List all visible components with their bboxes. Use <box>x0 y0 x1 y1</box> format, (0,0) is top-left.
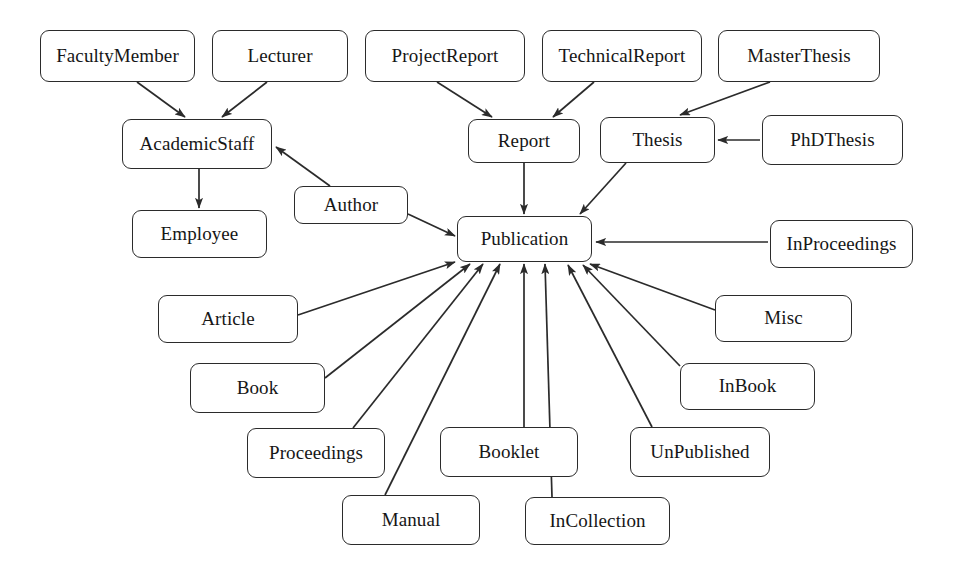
node-employee[interactable]: Employee <box>132 210 267 258</box>
node-label: MasterThesis <box>747 46 851 67</box>
node-incollection[interactable]: InCollection <box>525 497 670 545</box>
node-label: Misc <box>764 308 802 329</box>
node-label: Booklet <box>479 442 540 463</box>
node-inbook[interactable]: InBook <box>680 363 815 410</box>
node-academicstaff[interactable]: AcademicStaff <box>122 119 272 169</box>
node-phdthesis[interactable]: PhDThesis <box>762 115 903 165</box>
node-label: Manual <box>382 510 441 531</box>
node-label: PhDThesis <box>790 130 874 151</box>
node-label: Author <box>324 195 378 216</box>
node-label: ProjectReport <box>392 46 499 67</box>
node-label: InCollection <box>549 511 645 532</box>
node-label: FacultyMember <box>56 46 179 67</box>
node-technicalreport[interactable]: TechnicalReport <box>542 30 702 82</box>
node-inproceedings[interactable]: InProceedings <box>770 220 913 268</box>
node-label: Thesis <box>632 130 682 151</box>
node-label: AcademicStaff <box>140 134 255 155</box>
node-misc[interactable]: Misc <box>715 295 852 342</box>
node-manual[interactable]: Manual <box>342 495 480 545</box>
node-label: InProceedings <box>787 234 897 255</box>
node-publication[interactable]: Publication <box>457 216 592 262</box>
node-report[interactable]: Report <box>468 119 580 163</box>
node-label: Publication <box>481 229 569 250</box>
node-label: UnPublished <box>650 442 749 463</box>
class-hierarchy-diagram: FacultyMemberLecturerProjectReportTechni… <box>0 0 960 575</box>
node-book[interactable]: Book <box>190 363 325 413</box>
node-label: InBook <box>719 376 777 397</box>
node-facultymember[interactable]: FacultyMember <box>40 30 195 82</box>
node-projectreport[interactable]: ProjectReport <box>365 30 525 82</box>
node-booklet[interactable]: Booklet <box>440 427 578 477</box>
node-label: Lecturer <box>247 46 312 67</box>
node-unpublished[interactable]: UnPublished <box>630 427 770 477</box>
node-article[interactable]: Article <box>158 295 298 343</box>
node-label: Proceedings <box>269 443 363 464</box>
node-label: Book <box>237 378 279 399</box>
node-author[interactable]: Author <box>294 186 408 224</box>
node-lecturer[interactable]: Lecturer <box>212 30 348 82</box>
node-label: TechnicalReport <box>559 46 686 67</box>
node-proceedings[interactable]: Proceedings <box>247 428 385 478</box>
node-label: Employee <box>161 224 239 245</box>
node-label: Article <box>201 309 254 330</box>
node-label: Report <box>498 131 550 152</box>
node-layer: FacultyMemberLecturerProjectReportTechni… <box>0 0 960 575</box>
node-thesis[interactable]: Thesis <box>600 117 715 163</box>
node-masterthesis[interactable]: MasterThesis <box>718 30 880 82</box>
